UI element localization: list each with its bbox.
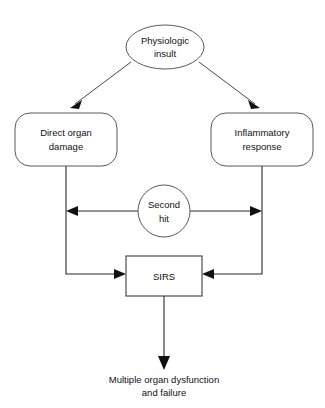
arrow-head-icon: [114, 269, 126, 279]
arrow-head-icon: [248, 100, 260, 109]
node-label-line2: insult: [154, 48, 177, 59]
edge-second-hit-to-right-branch: [190, 206, 262, 216]
rounded-rectangle-shape: [211, 113, 313, 166]
edge-insult-to-inflammatory-response: [199, 62, 260, 109]
edge-line: [66, 166, 118, 274]
edge-inflammatory-response-to-sirs: [202, 166, 262, 279]
node-label-line1: Second: [148, 199, 180, 210]
outcome-label-line1: Multiple organ dysfunction: [109, 374, 219, 385]
edge-line: [75, 62, 131, 104]
edge-insult-to-direct-organ-damage: [70, 62, 131, 109]
circle-shape: [138, 185, 190, 237]
arrow-head-icon: [202, 269, 214, 279]
edge-line: [199, 62, 255, 104]
node-label-line2: response: [242, 141, 281, 152]
node-label-line1: Physiologic: [141, 35, 189, 46]
node-label-line1: Direct organ: [40, 127, 92, 138]
rounded-rectangle-shape: [15, 113, 117, 166]
arrow-head-icon: [158, 356, 170, 370]
diagram-canvas: Physiologic insult Direct organ damage I…: [0, 0, 325, 408]
node-outcome: Multiple organ dysfunction and failure: [109, 374, 219, 398]
node-sirs: SIRS: [126, 256, 202, 296]
arrow-head-icon: [70, 100, 82, 109]
arrow-head-icon: [250, 206, 262, 216]
node-second-hit: Second hit: [138, 185, 190, 237]
edge-direct-organ-damage-to-sirs: [66, 166, 126, 279]
edge-sirs-to-outcome: [158, 296, 170, 370]
node-label-line1: Inflammatory: [235, 127, 290, 138]
node-physiologic-insult: Physiologic insult: [126, 25, 204, 69]
node-label-line2: hit: [159, 213, 169, 224]
outcome-label-line2: and failure: [142, 387, 186, 398]
arrow-head-icon: [66, 206, 78, 216]
node-direct-organ-damage: Direct organ damage: [15, 113, 117, 166]
edge-second-hit-to-left-branch: [66, 206, 138, 216]
flow-diagram: Physiologic insult Direct organ damage I…: [0, 0, 325, 408]
node-inflammatory-response: Inflammatory response: [211, 113, 313, 166]
node-label: SIRS: [153, 271, 175, 282]
node-label-line2: damage: [49, 141, 83, 152]
edge-line: [210, 166, 262, 274]
